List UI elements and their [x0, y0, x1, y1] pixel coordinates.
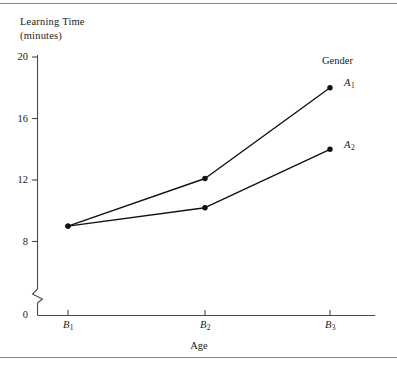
- series-line-a2: [65, 147, 332, 229]
- series-label-a1-base: A: [344, 77, 350, 88]
- figure-root: Learning Time (minutes) 20 16 12 8 0 B1 …: [0, 0, 397, 368]
- x-axis-title: Age: [190, 341, 208, 352]
- y-tick-label-12: 12: [6, 175, 28, 186]
- series-label-a2-base: A: [344, 139, 350, 150]
- y-tick-label-20: 20: [6, 52, 28, 63]
- x-tick-label-b1-sub: 1: [70, 323, 74, 332]
- series-label-a2-sub: 2: [351, 143, 355, 152]
- series-a1-polyline: [68, 88, 330, 226]
- x-tick-label-b2: B2: [200, 320, 210, 331]
- x-axis-ticks: [68, 310, 330, 316]
- y-tick-label-0: 0: [6, 310, 28, 321]
- data-point-a1-b3: [327, 85, 332, 90]
- x-tick-label-b3-sub: 3: [332, 323, 336, 332]
- series-label-a1-sub: 1: [351, 81, 355, 90]
- y-axis-break-zigzag: [33, 289, 43, 303]
- series-label-a2: A2: [344, 140, 354, 151]
- x-tick-label-b2-sub: 2: [207, 323, 211, 332]
- series-a2-polyline: [68, 149, 330, 226]
- y-tick-label-8: 8: [6, 237, 28, 248]
- series-label-a1: A1: [344, 78, 354, 89]
- series-line-a1: [65, 85, 332, 229]
- x-tick-label-b2-base: B: [200, 319, 206, 330]
- y-axis-title-line2: (minutes): [20, 31, 62, 42]
- data-point-a2-b2: [202, 205, 207, 210]
- data-point-a2-b3: [327, 147, 332, 152]
- data-point-a2-b1: [65, 223, 70, 228]
- x-tick-label-b1-base: B: [63, 319, 69, 330]
- legend-title: Gender: [322, 56, 353, 67]
- axes-group: [33, 55, 376, 316]
- x-tick-label-b3-base: B: [325, 319, 331, 330]
- y-axis-title-line1: Learning Time: [20, 17, 85, 28]
- y-axis-ticks: [32, 57, 38, 242]
- data-point-a1-b2: [202, 176, 207, 181]
- x-tick-label-b3: B3: [325, 320, 335, 331]
- x-tick-label-b1: B1: [63, 320, 73, 331]
- y-tick-label-16: 16: [6, 114, 28, 125]
